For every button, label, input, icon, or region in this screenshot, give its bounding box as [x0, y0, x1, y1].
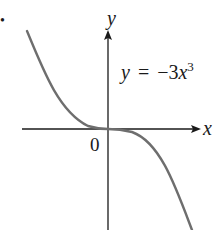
- equation-exponent: 3: [187, 59, 194, 74]
- x-axis-label: x: [203, 118, 212, 138]
- equation-equals: =: [138, 61, 149, 83]
- equation-label: y = −3x3: [121, 60, 194, 82]
- equation-lhs: y: [121, 61, 130, 83]
- cubic-graph-figure: • y x 0 y = −3x3: [0, 0, 218, 230]
- graph-canvas: [0, 0, 218, 230]
- y-axis-label: y: [107, 8, 116, 28]
- equation-variable: x: [178, 61, 187, 83]
- origin-label: 0: [90, 135, 100, 154]
- equation-coefficient: −3: [157, 61, 178, 83]
